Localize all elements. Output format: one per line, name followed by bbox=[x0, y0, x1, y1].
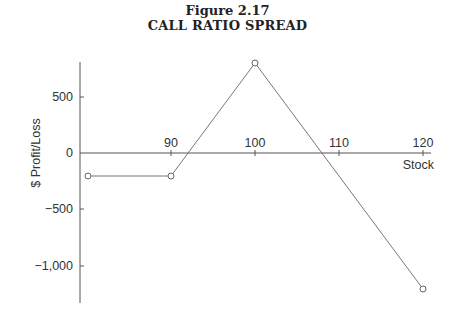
y-tick-label: 0 bbox=[66, 146, 73, 160]
y-axis-label: $ Profit/Loss bbox=[29, 118, 43, 187]
y-tick-label: −500 bbox=[45, 202, 73, 216]
pl-line bbox=[88, 63, 423, 289]
x-tick-label: 110 bbox=[329, 136, 349, 150]
x-tick-label: 100 bbox=[245, 136, 266, 150]
y-tick-label: 500 bbox=[52, 90, 73, 104]
x-tick-label: 90 bbox=[164, 136, 178, 150]
chart-plot: 500 0 −500 −1,000 90 100 110 120 Stock $… bbox=[0, 0, 455, 316]
x-tick-label: 120 bbox=[413, 136, 434, 150]
x-axis-label: Stock bbox=[403, 158, 435, 172]
y-tick-label: −1,000 bbox=[34, 259, 73, 273]
